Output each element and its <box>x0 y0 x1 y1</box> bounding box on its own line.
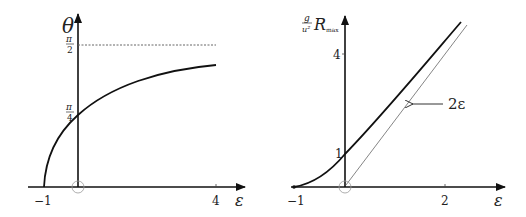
left-tick-pi4-den: 4 <box>67 113 73 123</box>
right-ylabel-num: g <box>304 13 310 23</box>
left-tick-neg1: −1 <box>34 194 52 208</box>
figure: θ π 2 π 4 −1 4 ε 2ε g u² R max 4 1 −1 2 … <box>0 0 526 217</box>
left-xlabel: ε <box>235 191 244 210</box>
left-tick-pi2-num: π <box>65 34 73 44</box>
right-ylabel-den: u² <box>302 25 310 34</box>
left-tick-pi2-den: 2 <box>67 45 73 55</box>
right-tick-neg1: −1 <box>287 194 305 208</box>
right-ylabel-R: R <box>313 15 326 34</box>
right-xlabel: ε <box>494 191 503 210</box>
left-tick-pi4-num: π <box>65 102 73 112</box>
left-chart: θ π 2 π 4 −1 4 ε <box>28 14 245 210</box>
right-tick-4: 4 <box>333 48 341 62</box>
right-annotation-2eps: 2ε <box>448 95 466 113</box>
left-tick-4: 4 <box>212 194 220 208</box>
right-tick-2: 2 <box>441 194 449 208</box>
right-chart: 2ε g u² R max 4 1 −1 2 ε <box>287 13 505 210</box>
left-curve-theta <box>44 65 216 187</box>
right-ylabel-sub: max <box>326 26 339 33</box>
right-tick-1: 1 <box>335 147 343 161</box>
